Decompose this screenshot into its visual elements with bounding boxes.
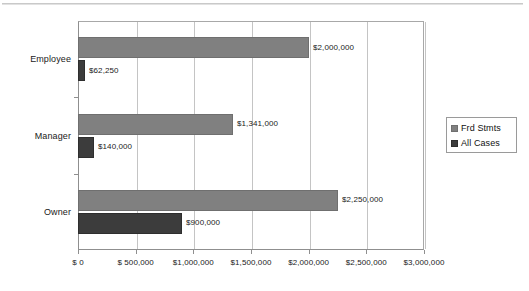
data-label-employee-frd-stmts: $2,000,000 [313,43,354,53]
x-tick-mark-5 [366,250,367,254]
data-label-owner-frd-stmts: $2,250,000 [342,195,383,205]
x-tick-label-1: $ 500,000 [117,258,154,268]
legend-item-frd-stmts[interactable]: Frd Stmts [451,122,516,135]
bar-owner-frd-stmts [78,190,338,211]
x-tick-mark-4 [309,250,310,254]
x-tick-mark-1 [136,250,137,254]
x-tick-label-0: $ 0 [72,258,83,268]
y-tick-mark-1 [74,97,78,98]
bar-chart: $ 0$ 500,000$1,000,000$1,500,000$2,000,0… [0,0,529,291]
category-label-manager: Manager [35,131,71,142]
gridline-x-4 [310,22,311,249]
x-tick-mark-6 [424,250,425,254]
gridline-x-5 [367,22,368,249]
bar-employee-all-cases [78,60,85,81]
bar-owner-all-cases [78,213,182,234]
scan-artifact-line-secondary [2,4,523,5]
bar-employee-frd-stmts [78,37,309,58]
legend-label-frd-stmts: Frd Stmts [461,123,501,134]
legend-label-all-cases: All Cases [461,138,500,149]
bar-manager-all-cases [78,137,94,158]
data-label-employee-all-cases: $62,250 [89,66,119,76]
x-tick-label-5: $2,500,000 [346,258,387,268]
bar-manager-frd-stmts [78,114,233,135]
x-tick-label-4: $2,000,000 [288,258,329,268]
x-tick-label-3: $1,500,000 [230,258,271,268]
category-label-employee: Employee [30,54,71,65]
x-tick-mark-2 [193,250,194,254]
x-tick-mark-3 [251,250,252,254]
data-label-owner-all-cases: $900,000 [186,218,220,228]
data-label-manager-frd-stmts: $1,341,000 [237,119,278,129]
chart-legend: Frd Stmts All Cases [446,117,517,153]
x-tick-label-2: $1,000,000 [173,258,214,268]
y-tick-mark-2 [74,174,78,175]
x-tick-mark-0 [78,250,79,254]
legend-item-all-cases[interactable]: All Cases [451,137,516,150]
legend-swatch-frd-stmts-icon [451,125,458,132]
category-label-owner: Owner [44,207,71,218]
gridline-x-6 [425,22,426,249]
data-label-manager-all-cases: $140,000 [98,142,132,152]
legend-swatch-all-cases-icon [451,140,458,147]
x-tick-label-6: $3,000,000 [403,258,444,268]
